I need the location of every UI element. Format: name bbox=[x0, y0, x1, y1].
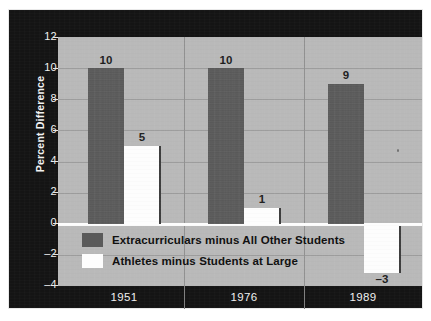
bar-label-1989-extracurriculars: 9 bbox=[320, 69, 372, 81]
y-tick-label-0: 0 bbox=[11, 217, 57, 228]
x-tick-label-1976: 1976 bbox=[184, 291, 304, 303]
x-axis-labels: 1951 1976 1989 bbox=[58, 286, 422, 309]
legend-label-athletes: Athletes minus Students at Large bbox=[112, 255, 298, 267]
legend-swatch-athletes bbox=[82, 254, 103, 268]
y-tick-label-6: 6 bbox=[11, 124, 57, 135]
bar-label-1989-athletes: –3 bbox=[356, 273, 408, 285]
bar-label-1951-extracurriculars: 10 bbox=[80, 54, 132, 66]
y-tick-label-neg2: –2 bbox=[11, 248, 57, 259]
y-tick-label-2: 2 bbox=[11, 186, 57, 197]
legend-item-athletes: Athletes minus Students at Large bbox=[82, 254, 345, 268]
plot-area: 10 5 10 1 9 –3 Extracurriculars minus Al… bbox=[58, 37, 422, 286]
y-tick-label-10: 10 bbox=[11, 62, 57, 73]
bar-1989-extracurriculars bbox=[328, 84, 364, 224]
bar-label-1951-athletes: 5 bbox=[116, 131, 168, 143]
bar-1951-extracurriculars bbox=[88, 68, 124, 224]
bar-1989-athletes bbox=[364, 226, 401, 273]
x-tick-label-1951: 1951 bbox=[64, 291, 184, 303]
legend-swatch-extracurriculars bbox=[82, 233, 103, 247]
bar-1951-athletes bbox=[124, 146, 161, 224]
legend-label-extracurriculars: Extracurriculars minus All Other Student… bbox=[112, 234, 345, 246]
y-tick-label-12: 12 bbox=[11, 31, 57, 42]
y-tick-label-neg4: –4 bbox=[11, 279, 57, 290]
y-axis-ticks: 12 10 8 6 4 2 0 –2 –4 bbox=[9, 10, 57, 308]
legend-item-extracurriculars: Extracurriculars minus All Other Student… bbox=[82, 233, 345, 247]
chart-legend: Extracurriculars minus All Other Student… bbox=[82, 233, 345, 275]
chart-figure: Percent Difference 12 10 8 6 4 2 0 –2 –4 bbox=[8, 9, 423, 309]
bar-label-1976-athletes: 1 bbox=[236, 193, 288, 205]
x-tick-label-1989: 1989 bbox=[304, 291, 422, 303]
y-tick-label-8: 8 bbox=[11, 93, 57, 104]
bar-1976-athletes bbox=[244, 208, 281, 224]
scan-speck bbox=[397, 149, 399, 152]
bar-label-1976-extracurriculars: 10 bbox=[200, 54, 252, 66]
y-tick-label-4: 4 bbox=[11, 155, 57, 166]
